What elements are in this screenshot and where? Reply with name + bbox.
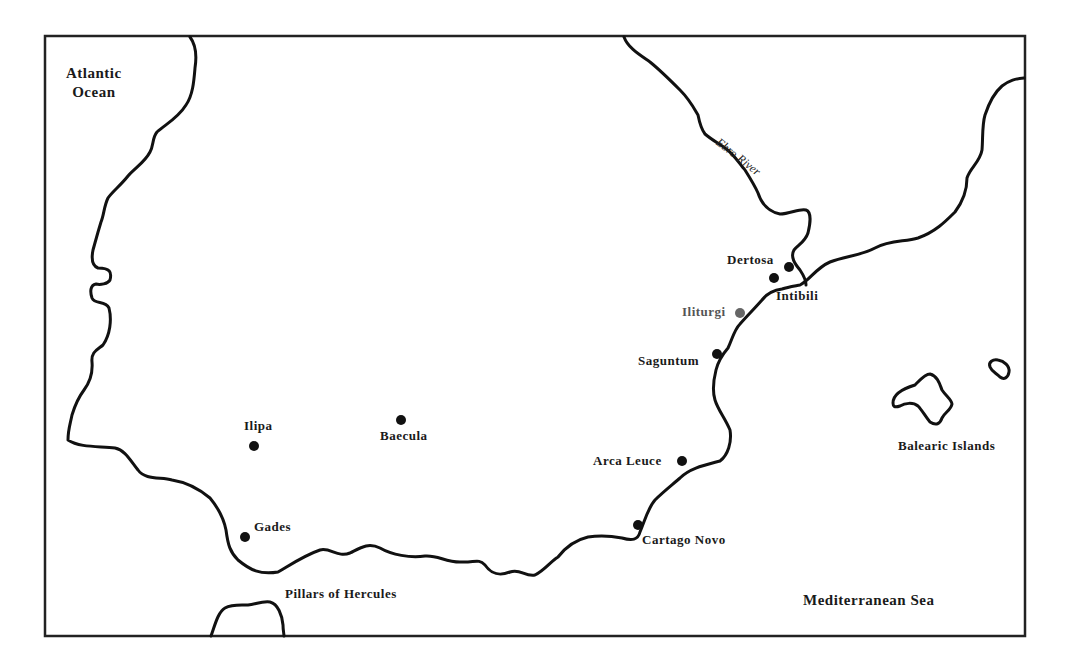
label-mediterranean-sea: Mediterranean Sea [803,591,934,610]
map-of-iberia: Atlantic Ocean Mediterranean Sea Baleari… [0,0,1065,668]
label-atlantic-line2: Ocean [66,83,122,102]
city-marker-iliturgi[interactable] [735,308,745,318]
city-label-baecula: Baecula [380,428,428,444]
city-label-gades: Gades [254,519,291,535]
label-balearic-islands: Balearic Islands [898,438,995,454]
island-mallorca [893,374,952,424]
city-marker-cartago-novo[interactable] [633,520,643,530]
city-label-saguntum: Saguntum [638,353,699,369]
ebro-river [624,37,810,285]
city-marker-baecula[interactable] [396,415,406,425]
city-marker-intibili[interactable] [769,273,779,283]
label-atlantic-line1: Atlantic [66,64,122,83]
city-marker-saguntum[interactable] [712,349,722,359]
coastline-iberia [68,37,1024,575]
city-marker-gades[interactable] [240,532,250,542]
city-marker-dertosa[interactable] [784,262,794,272]
label-atlantic-ocean: Atlantic Ocean [66,64,122,102]
city-marker-ilipa[interactable] [249,441,259,451]
city-label-iliturgi: Iliturgi [682,304,726,320]
city-label-dertosa: Dertosa [727,252,774,268]
island-menorca [990,360,1010,379]
label-pillars-of-hercules: Pillars of Hercules [285,586,397,602]
city-label-ilipa: Ilipa [244,418,273,434]
coastline-africa [211,602,284,636]
city-marker-arca-leuce[interactable] [677,456,687,466]
city-label-intibili: Intibili [776,288,818,304]
city-label-arca-leuce: Arca Leuce [593,453,662,469]
map-border [45,36,1025,636]
map-outlines [0,0,1065,668]
city-label-cartago-novo: Cartago Novo [642,532,726,548]
